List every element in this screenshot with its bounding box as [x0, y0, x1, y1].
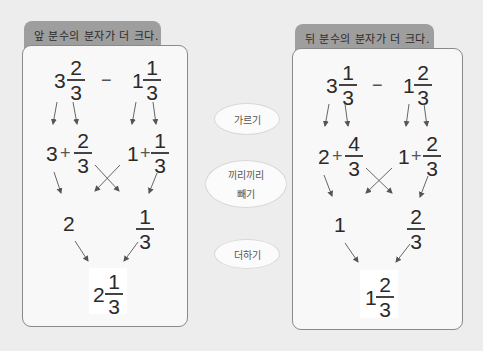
step-bubble-add: 더하기 — [214, 239, 280, 269]
step-label: 끼리끼리 — [228, 167, 264, 182]
step-label-line2: 빼기 — [237, 186, 255, 201]
step-label: 더하기 — [234, 247, 261, 262]
step-bubble-divide: 가르기 — [214, 103, 280, 135]
step-bubble-subtract: 끼리끼리 빼기 — [205, 160, 287, 208]
step-label: 가르기 — [234, 112, 261, 127]
